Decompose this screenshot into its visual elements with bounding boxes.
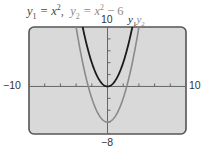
- graph-screen: [0, 0, 208, 152]
